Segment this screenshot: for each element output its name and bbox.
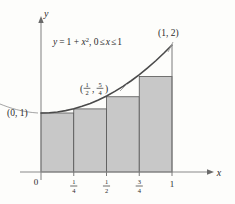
mid-label-y-denominator: 4 bbox=[98, 89, 102, 96]
y-axis-arrow bbox=[38, 16, 43, 23]
x-tick-label-one: 1 bbox=[170, 179, 175, 189]
riemann-sum-figure: y x 0 1 4 1 2 3 4 1 y=1 + x2,0≤x≤1 (0, 1… bbox=[0, 0, 235, 204]
tick-quarter-denominator: 4 bbox=[72, 187, 76, 194]
equation-lhs: y bbox=[52, 37, 58, 47]
tick-three-quarter-numerator: 3 bbox=[138, 178, 141, 185]
x-tick-label-three-quarter: 3 4 bbox=[136, 178, 143, 194]
mid-label-separator: , bbox=[92, 84, 94, 94]
x-tick-label-half: 1 2 bbox=[103, 178, 110, 194]
x-tick-label-quarter: 1 4 bbox=[70, 178, 77, 194]
mid-label-open-paren: ( bbox=[80, 84, 83, 95]
equation-domain: 0 bbox=[94, 37, 99, 47]
tick-half-denominator: 2 bbox=[105, 187, 108, 194]
point-label-origin: (0, 1) bbox=[7, 108, 28, 119]
rectangle-4 bbox=[139, 77, 172, 173]
tick-three-quarter-denominator: 4 bbox=[138, 187, 142, 194]
mid-label-x-denominator: 2 bbox=[85, 89, 88, 96]
point-label-mid: ( 1 2 , 5 4 ) bbox=[80, 81, 108, 97]
equation-comma: , bbox=[89, 37, 91, 47]
origin-label: 0 bbox=[34, 177, 39, 187]
svg-text:y=1 + x2,0≤x≤1: y=1 + x2,0≤x≤1 bbox=[52, 36, 122, 47]
x-tick-marks bbox=[74, 172, 172, 176]
equation-rhs: 1 + bbox=[67, 37, 82, 47]
tick-quarter-numerator: 1 bbox=[72, 178, 75, 185]
mid-label-close-paren: ) bbox=[105, 84, 108, 95]
equation-equals: = bbox=[59, 37, 64, 47]
x-axis-arrow bbox=[207, 169, 214, 174]
y-axis-label: y bbox=[43, 8, 49, 19]
rectangle-2 bbox=[74, 109, 107, 172]
tick-half-numerator: 1 bbox=[105, 178, 108, 185]
point-label-end: (1, 2) bbox=[158, 28, 179, 39]
equation-annotation: y=1 + x2,0≤x≤1 bbox=[52, 36, 122, 47]
rectangle-3 bbox=[107, 97, 140, 172]
mid-label-x-numerator: 1 bbox=[85, 81, 88, 88]
x-axis-label: x bbox=[216, 167, 222, 178]
mid-label-y-numerator: 5 bbox=[98, 81, 101, 88]
rectangle-1 bbox=[41, 113, 74, 172]
